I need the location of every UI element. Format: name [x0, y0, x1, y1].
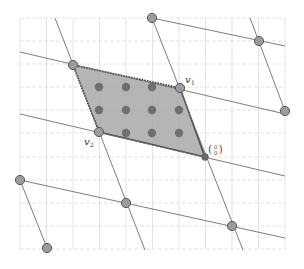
lattice-point [68, 60, 77, 69]
lattice-point [227, 221, 236, 230]
lattice-line [20, 180, 47, 248]
label-v2: v 2 [84, 136, 94, 148]
interior-integer-point [122, 129, 130, 137]
interior-integer-point [148, 106, 156, 114]
lattice-point [147, 13, 156, 22]
origin-paren-left: ( [208, 143, 212, 156]
interior-integer-point [122, 106, 130, 114]
v1-subscript: 1 [191, 79, 195, 86]
interior-integer-point [148, 129, 156, 137]
interior-integer-point [148, 83, 156, 91]
interior-integer-point [95, 83, 103, 91]
lattice-point [254, 36, 263, 45]
lattice-point [175, 83, 184, 92]
v2-subscript: 2 [90, 141, 94, 148]
lattice-point [94, 127, 103, 136]
label-origin: ( 0 0 ) [208, 143, 223, 156]
interior-integer-point [122, 83, 130, 91]
origin-bottom: 0 [214, 150, 218, 156]
lattice-point [280, 106, 289, 115]
interior-integer-point [95, 106, 103, 114]
lattice-diagram: v 1 v 2 ( 0 0 ) [0, 0, 304, 269]
lattice-point [42, 243, 51, 252]
lattice-point [15, 175, 24, 184]
label-v1: v 1 [185, 74, 195, 86]
interior-integer-point [175, 106, 183, 114]
origin-paren-right: ) [219, 143, 223, 156]
lattice-line [152, 18, 285, 46]
lattice-line [250, 18, 285, 111]
interior-integer-point [175, 129, 183, 137]
lattice-point [121, 198, 130, 207]
lattice-canvas: v 1 v 2 ( 0 0 ) [0, 0, 304, 269]
